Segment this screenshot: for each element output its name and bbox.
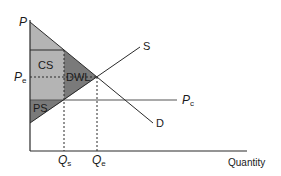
dwl-label: DWL	[66, 71, 90, 83]
pc-label: Pc	[182, 93, 194, 108]
qs-label: Qs	[58, 153, 71, 168]
y-axis-label: P	[19, 15, 27, 29]
supply-label: S	[143, 40, 150, 52]
x-axis-label: Quantity	[228, 157, 265, 168]
demand-label: D	[156, 117, 164, 129]
ps-label: PS	[33, 102, 48, 114]
welfare-diagram: P Pe Pc Qs Qe S D CS DWL PS Quantity	[0, 0, 281, 176]
cs-label: CS	[38, 59, 53, 71]
qe-label: Qe	[92, 153, 106, 168]
pe-label: Pe	[14, 70, 27, 85]
